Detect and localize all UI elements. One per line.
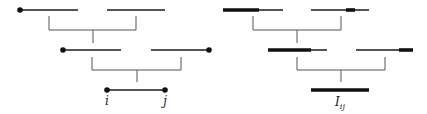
endpoint-dot — [162, 87, 168, 93]
interval-label-sub: ij — [340, 102, 345, 111]
right-diagram-intervals — [223, 10, 413, 90]
endpoint-dot — [60, 47, 66, 53]
interval-merge-diagram — [0, 0, 427, 114]
interval-label-iij: Iij — [335, 96, 345, 111]
endpoint-dot — [206, 47, 212, 53]
point-label-j: j — [163, 95, 167, 107]
endpoint-dot — [104, 87, 110, 93]
merge-bracket — [49, 16, 136, 43]
figure-canvas: ij Iij — [0, 0, 427, 114]
merge-bracket — [297, 57, 385, 82]
endpoint-dot — [17, 7, 23, 13]
merge-bracket — [92, 57, 181, 82]
merge-bracket — [253, 16, 341, 43]
point-label-i: i — [105, 95, 109, 107]
left-diagram-points — [17, 7, 212, 93]
